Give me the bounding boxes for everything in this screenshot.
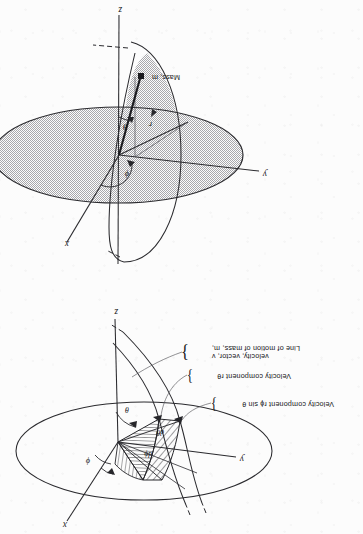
top-dtheta-label: dθ [156, 428, 164, 437]
leader-line-1 [182, 403, 211, 420]
z-axis-line [115, 319, 118, 442]
z-axis-line [118, 15, 119, 264]
callout-brace-2: } [187, 366, 193, 386]
meridian-dash-bottom [93, 45, 128, 48]
callout-velocity-r-theta: Velocity component rθ [217, 371, 291, 380]
meridian-dash-left [202, 503, 206, 513]
callout-line-of-motion-line1: Line of motion of mass, m, [212, 343, 300, 351]
radius-label: r [149, 120, 152, 129]
bottom-x-axis-label: x [65, 239, 69, 249]
x-axis-line [67, 442, 118, 521]
bottom-figure-canvas [0, 0, 363, 267]
callout-velocity-r-phi-sin-theta: Velocity component rϕ sin θ [242, 399, 334, 408]
bottom-phi-label: ϕ [125, 170, 129, 179]
scanned-figure-page: x y z ϕ θ dϕ dθ } Velocity component rϕ … [0, 0, 363, 534]
top-z-axis-label: z [114, 307, 118, 317]
top-figure: x y z ϕ θ dϕ dθ } Velocity component rϕ … [0, 267, 363, 534]
top-dphi-label: dϕ [144, 450, 152, 459]
bottom-z-axis-label: z [118, 5, 122, 15]
bottom-figure: x y z ϕ θ r Mass, m [0, 0, 363, 267]
phi-arrowhead [107, 468, 115, 475]
bottom-theta-label: θ [123, 122, 127, 131]
callout-line-of-motion-line2: velocity, vector, v [212, 352, 300, 360]
top-y-axis-label: y [240, 454, 244, 464]
callout-brace-1: } [211, 394, 217, 414]
mass-label: Mass, m [152, 72, 180, 81]
bottom-y-axis-label: y [263, 169, 267, 179]
top-x-axis-label: x [63, 520, 67, 530]
top-phi-label: ϕ [86, 457, 90, 466]
callout-line-of-motion: velocity, vector, v Line of motion of ma… [212, 343, 300, 360]
top-theta-label: θ [125, 405, 129, 414]
theta-arrowhead [129, 421, 137, 428]
meridian-dash-right [186, 505, 190, 515]
trajectory-dash-bottom [110, 324, 123, 332]
leader-line-2 [161, 375, 187, 416]
callout-brace-3: } [181, 342, 189, 365]
mass-point-marker [138, 73, 144, 79]
